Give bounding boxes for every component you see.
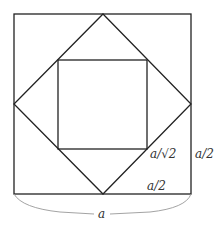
nested-squares-diagram: a/√2 a/2 a/2 a: [0, 0, 222, 239]
diamond: [14, 14, 191, 194]
label-diamond-side: a/√2: [150, 147, 176, 161]
outer-square: [14, 14, 191, 194]
side-length-brace-right: [110, 194, 191, 214]
label-bottom-half: a/2: [147, 179, 166, 193]
side-length-brace: [14, 194, 94, 214]
inner-square: [58, 60, 147, 149]
label-right-half: a/2: [195, 147, 214, 161]
label-full-side: a: [98, 207, 105, 221]
